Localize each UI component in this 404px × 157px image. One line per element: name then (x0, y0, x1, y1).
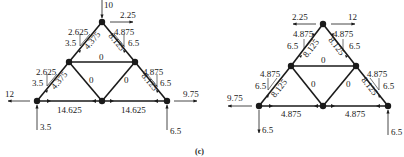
component-label: 2.625 (36, 67, 57, 77)
joint-node (256, 103, 262, 109)
member-label: 8.125 (269, 77, 290, 100)
force-arrow-icon (110, 99, 114, 103)
joint-node (164, 98, 170, 104)
member-label: 0 (346, 79, 351, 89)
force-arrow-icon (331, 104, 335, 108)
joint-node (34, 98, 40, 104)
truss-diagram: 10 2.25 12 9.75 3.5 6.5 2.625 3.5 4.875 … (0, 0, 404, 157)
member-label: 0 (311, 79, 316, 89)
component-label: 4.875 (260, 69, 281, 79)
member-inner-left (69, 62, 102, 101)
member-label: 0 (321, 55, 326, 65)
figure-caption: (c) (195, 147, 204, 156)
load-label: 2.25 (120, 10, 136, 20)
member-label: 0 (99, 52, 104, 62)
member-inner-right (323, 66, 356, 106)
joint-node (99, 98, 105, 104)
component-label: 6.5 (383, 81, 395, 91)
member-label: 0 (124, 75, 129, 85)
reaction-label: 6.5 (391, 127, 403, 137)
member-label: 0 (89, 75, 94, 85)
member-label: 4.875 (281, 109, 302, 119)
joint-node (385, 103, 391, 109)
force-arrow-icon (47, 99, 51, 103)
member-label: 14.625 (121, 105, 146, 115)
joint-node (99, 19, 105, 25)
load-label: 2.25 (292, 12, 308, 22)
force-arrow-icon (92, 99, 96, 103)
right-truss: 2.25 12 9.75 6.5 6.5 4.875 6.5 4.875 6.5… (227, 12, 403, 137)
force-arrow-icon (154, 99, 158, 103)
component-label: 6.5 (160, 78, 172, 88)
force-arrow-icon (376, 104, 380, 108)
joint-node (320, 21, 326, 27)
load-label: 9.75 (227, 93, 243, 103)
reaction-label: 6.5 (170, 126, 182, 136)
force-arrow-icon (314, 104, 318, 108)
component-label: 3.5 (65, 38, 77, 48)
component-label: 2.625 (68, 27, 89, 37)
load-label: 12 (348, 12, 357, 22)
joint-node (320, 103, 326, 109)
component-label: 6.5 (128, 38, 140, 48)
member-inner-right (102, 62, 135, 101)
component-label: 4.875 (293, 29, 314, 39)
load-label: 9.75 (183, 89, 199, 99)
force-arrow-icon (269, 104, 273, 108)
left-truss: 10 2.25 12 9.75 3.5 6.5 2.625 3.5 4.875 … (5, 0, 199, 136)
component-label: 3.5 (32, 78, 44, 88)
load-label: 6.5 (262, 125, 274, 135)
load-label: 10 (104, 0, 114, 10)
member-label: 4.875 (345, 109, 366, 119)
joint-node (288, 63, 294, 69)
reaction-label: 3.5 (40, 122, 52, 132)
member-label: 14.625 (57, 105, 82, 115)
component-label: 6.5 (255, 81, 267, 91)
joint-node (132, 59, 138, 65)
joint-node (66, 59, 72, 65)
member-inner-left (291, 66, 323, 106)
component-label: 6.5 (349, 41, 361, 51)
load-label: 12 (5, 89, 14, 99)
joint-node (353, 63, 359, 69)
component-label: 6.5 (287, 41, 299, 51)
